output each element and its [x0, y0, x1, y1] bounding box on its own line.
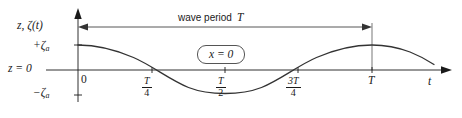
three-quarter-period-denominator: 4	[286, 88, 301, 99]
origin-label: 0	[81, 74, 87, 86]
x-axis	[46, 66, 452, 74]
wave-period-figure: z, ζ(t) +ζa z = 0 −ζa 0 t T T 4 T 2 3T 4…	[0, 0, 462, 118]
half-period-denominator: 2	[216, 88, 226, 99]
position-annotation-badge: x = 0	[197, 45, 245, 64]
positive-amplitude-subscript: a	[45, 44, 49, 53]
y-axis	[74, 8, 81, 102]
y-axis-arrowhead	[74, 8, 81, 19]
half-period-numerator: T	[216, 76, 226, 88]
positive-amplitude-symbol: +ζ	[33, 39, 45, 51]
quarter-period-denominator: 4	[142, 88, 152, 99]
wave-period-caption-text: wave period	[178, 12, 232, 23]
three-quarter-period-numerator: 3T	[286, 76, 301, 88]
dimension-arrow-head-left	[78, 23, 88, 30]
three-quarter-period-tick-label: 3T 4	[286, 76, 301, 98]
wave-curve	[78, 45, 434, 94]
baseline-label: z = 0	[8, 63, 32, 75]
negative-amplitude-label: −ζa	[33, 87, 49, 100]
full-period-tick-label: T	[368, 75, 374, 87]
wave-period-caption-symbol: T	[237, 11, 243, 23]
negative-amplitude-subscript: a	[45, 91, 49, 100]
quarter-period-tick-label: T 4	[142, 76, 152, 98]
negative-amplitude-symbol: −ζ	[33, 86, 45, 98]
wave-period-caption: wave periodT	[178, 12, 243, 24]
quarter-period-numerator: T	[142, 76, 152, 88]
half-period-tick-label: T 2	[216, 76, 226, 98]
wave-period-dimension-arrow	[78, 23, 372, 30]
positive-amplitude-label: +ζa	[33, 40, 49, 53]
dimension-arrow-head-right	[362, 23, 372, 30]
x-axis-arrowhead	[441, 66, 452, 74]
y-axis-label: z, ζ(t)	[17, 20, 43, 32]
x-axis-label: t	[428, 76, 431, 88]
